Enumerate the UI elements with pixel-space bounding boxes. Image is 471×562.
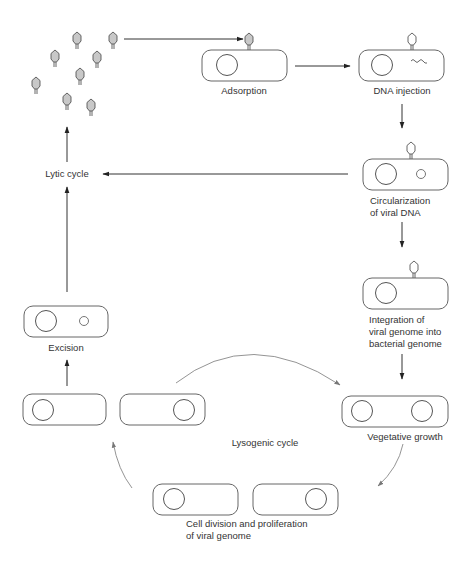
excision-label: Excision [26, 342, 106, 354]
circularization-label: Circularization of viral DNA [370, 195, 470, 219]
cell-division-pair [153, 484, 338, 515]
circularization-label-line1: Circularization [370, 195, 470, 207]
circularization-label-line2: of viral DNA [370, 207, 470, 219]
empty-phage-icon [407, 142, 415, 159]
attached-phage-icon [245, 33, 253, 50]
phage-icon [93, 51, 101, 68]
integration-label: Integration of viral genome into bacteri… [369, 314, 471, 350]
cell-division-label: Cell division and proliferation of viral… [186, 518, 346, 542]
integration-label-line3: bacterial genome [369, 338, 471, 350]
adsorption-label: Adsorption [204, 85, 284, 97]
phage-icon [109, 32, 117, 49]
empty-phage-icon [408, 33, 416, 50]
phage-icon [73, 32, 81, 49]
dna-injection-cell [359, 33, 444, 81]
circularization-cell [363, 142, 448, 190]
cell-division-label-line1: Cell division and proliferation [186, 518, 346, 530]
vegetative-growth-label: Vegetative growth [355, 431, 455, 443]
lysogenic-cycle-label: Lysogenic cycle [220, 437, 310, 449]
lysogen-pair [23, 394, 205, 425]
released-phage-cluster [32, 32, 117, 116]
arc-division-to-lysogen [113, 442, 132, 488]
arc-vegetative-to-division [378, 444, 403, 486]
phage-icon [76, 68, 84, 85]
dna-injection-label: DNA injection [356, 85, 448, 97]
phage-icon [87, 99, 95, 116]
integration-label-line2: viral genome into [369, 326, 471, 338]
excision-cell [24, 306, 108, 337]
empty-phage-icon [410, 261, 418, 278]
integration-label-line1: Integration of [369, 314, 471, 326]
adsorption-cell [202, 33, 287, 81]
vegetative-growth-cell [342, 396, 448, 427]
phage-icon [63, 93, 71, 110]
cell-division-label-line2: of viral genome [186, 530, 346, 542]
phage-icon [51, 50, 59, 67]
phage-icon [32, 77, 40, 94]
integration-cell [363, 261, 448, 309]
arc-lysogen-to-vegetative [176, 354, 340, 385]
lytic-cycle-label: Lytic cycle [22, 168, 112, 180]
